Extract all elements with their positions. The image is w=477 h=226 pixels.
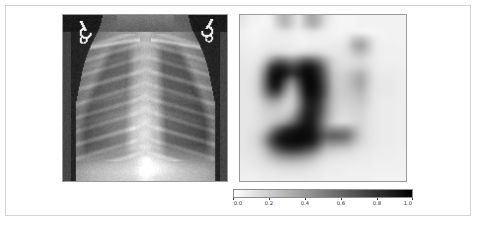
figure-root: 0.00.20.40.60.81.0 xyxy=(0,0,477,226)
colorbar-gradient xyxy=(233,189,413,198)
chest-xray-image xyxy=(63,15,227,181)
colorbar-tick-label: 0.8 xyxy=(373,199,382,207)
saliency-heatmap-panel xyxy=(239,14,407,182)
colorbar-tick-label: 1.0 xyxy=(404,199,413,207)
colorbar-tick-label: 0.2 xyxy=(265,199,274,207)
chest-xray-panel xyxy=(62,14,228,182)
colorbar: 0.00.20.40.60.81.0 xyxy=(233,189,413,215)
colorbar-tick-label: 0.0 xyxy=(234,199,243,207)
colorbar-tick-labels: 0.00.20.40.60.81.0 xyxy=(233,199,413,211)
colorbar-tick-label: 0.4 xyxy=(301,199,310,207)
saliency-heatmap-image xyxy=(240,15,406,181)
colorbar-tick-label: 0.6 xyxy=(337,199,346,207)
